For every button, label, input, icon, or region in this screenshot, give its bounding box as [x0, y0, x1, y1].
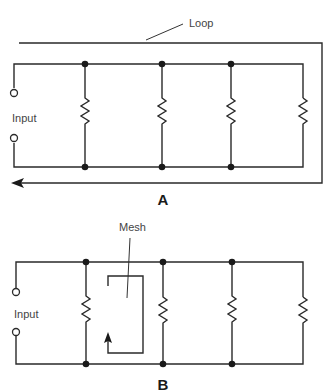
junction-node: [82, 164, 89, 171]
resistor-branch-1: [81, 64, 89, 167]
caption-b: B: [158, 376, 169, 392]
mesh-pointer-line: [127, 238, 130, 298]
resistor-branch-2: [158, 64, 166, 167]
bottom-rail: [16, 326, 303, 364]
bottom-rail: [14, 128, 303, 167]
resistor-branch-4: [299, 297, 307, 326]
resistor-branch-3: [227, 64, 235, 167]
junction-node: [83, 361, 90, 368]
input-terminal-top: [11, 90, 18, 97]
mesh-label: Mesh: [119, 221, 146, 233]
input-label: Input: [14, 308, 38, 320]
resistor-branch-2: [159, 262, 167, 364]
junction-node: [228, 164, 235, 171]
input-terminal-top: [13, 289, 20, 296]
top-rail: [16, 262, 303, 297]
junction-node: [160, 361, 167, 368]
junction-node: [159, 61, 166, 68]
resistor-branch-3: [228, 262, 236, 364]
junction-node: [229, 361, 236, 368]
loop-label: Loop: [189, 17, 213, 29]
input-label: Input: [12, 112, 36, 124]
resistor-branch-4: [299, 98, 307, 128]
circuit-diagram: Loop Input A Mesh: [0, 0, 329, 392]
junction-node: [159, 164, 166, 171]
mesh-current-path: [104, 276, 143, 353]
junction-node: [228, 61, 235, 68]
loop-path: [11, 43, 322, 188]
panel-b: Mesh Input B: [13, 221, 308, 392]
caption-a: A: [158, 191, 169, 208]
junction-node: [83, 259, 90, 266]
panel-a: Loop Input A: [11, 17, 323, 208]
top-rail: [14, 64, 303, 98]
input-terminal-bottom: [11, 135, 18, 142]
junction-node: [82, 61, 89, 68]
junction-node: [229, 259, 236, 266]
loop-pointer-line: [146, 24, 183, 40]
resistor-branch-1: [82, 262, 90, 364]
input-terminal-bottom: [13, 329, 20, 336]
junction-node: [160, 259, 167, 266]
